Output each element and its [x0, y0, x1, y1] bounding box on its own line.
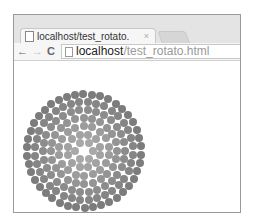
dot [96, 151, 104, 159]
dot [55, 143, 63, 151]
dot [64, 166, 72, 174]
dot [75, 106, 83, 114]
dot [112, 155, 120, 163]
dot [80, 122, 88, 130]
dot [55, 96, 63, 104]
dot [92, 108, 100, 116]
page-content [14, 61, 240, 212]
tab-title: localhost/test_rotato. [37, 31, 129, 42]
dot [59, 112, 67, 120]
dot [60, 183, 68, 191]
forward-arrow-icon[interactable]: → [32, 43, 43, 60]
dot [112, 138, 120, 146]
dot [93, 186, 101, 194]
dot [71, 91, 79, 99]
dot [43, 164, 51, 172]
address-bar[interactable]: localhost/test_rotato.html [61, 44, 240, 59]
dot [135, 134, 143, 142]
dot [23, 152, 31, 160]
dot [80, 114, 88, 122]
dot [96, 92, 104, 100]
dot [40, 156, 48, 164]
dot [25, 160, 33, 168]
toolbar: ← → C localhost/test_rotato.html [14, 43, 240, 61]
dot [80, 172, 88, 180]
dot [85, 188, 93, 196]
dot [88, 91, 96, 99]
dot [113, 194, 121, 202]
reload-icon[interactable]: C [47, 43, 55, 60]
dot [68, 135, 76, 143]
dot [127, 159, 135, 167]
close-tab-icon[interactable]: × [144, 29, 149, 44]
dot [76, 188, 84, 196]
dot [89, 170, 97, 178]
dot [121, 147, 129, 155]
dot [59, 103, 67, 111]
dot [79, 90, 87, 98]
dot [76, 139, 84, 147]
dot [71, 124, 79, 132]
dot [136, 159, 144, 167]
back-arrow-icon[interactable]: ← [17, 43, 28, 60]
browser-tab[interactable]: localhost/test_rotato. × [20, 28, 156, 44]
dot [48, 156, 56, 164]
dot [84, 98, 92, 106]
dot [113, 147, 121, 155]
dot [92, 135, 100, 143]
dot [23, 143, 31, 151]
dot [31, 143, 39, 151]
dot [89, 203, 97, 211]
dot [36, 183, 44, 191]
dot [76, 131, 84, 139]
dot [105, 143, 113, 151]
dot [42, 131, 50, 139]
dot [58, 135, 66, 143]
dot [127, 134, 135, 142]
dot [96, 143, 104, 151]
dot [108, 130, 116, 138]
url-host: localhost [76, 44, 123, 58]
url-path: /test_rotato.html [123, 44, 209, 58]
dot [51, 131, 59, 139]
tab-strip: localhost/test_rotato. × [14, 15, 240, 43]
dot [124, 126, 132, 134]
dot [42, 189, 50, 197]
dot [36, 168, 44, 176]
dot [81, 204, 89, 212]
dot [68, 186, 76, 194]
dot [129, 118, 137, 126]
dot [40, 139, 48, 147]
dot [30, 119, 38, 127]
dot [72, 171, 80, 179]
dot [129, 142, 137, 150]
dot [58, 160, 66, 168]
dot [55, 151, 63, 159]
dot [33, 160, 41, 168]
dot [31, 152, 39, 160]
dot [105, 198, 113, 206]
dot [67, 100, 75, 108]
dot [137, 142, 145, 150]
dot [63, 119, 71, 127]
dot [133, 126, 141, 134]
dot [64, 143, 72, 151]
dot [56, 199, 64, 207]
dot [71, 115, 79, 123]
dot [64, 202, 72, 210]
dot [71, 147, 79, 155]
dot [53, 178, 61, 186]
dot [76, 155, 84, 163]
dot [129, 151, 137, 159]
dot [47, 147, 55, 155]
dot [75, 98, 83, 106]
dot [92, 100, 100, 108]
dot [84, 106, 92, 114]
dot [72, 203, 80, 211]
browser-window: localhost/test_rotato. × ← → C localhost… [13, 14, 241, 213]
dot [39, 147, 47, 155]
page-icon [25, 31, 34, 42]
dot [125, 167, 133, 175]
dot [45, 113, 53, 121]
dot [63, 93, 71, 101]
